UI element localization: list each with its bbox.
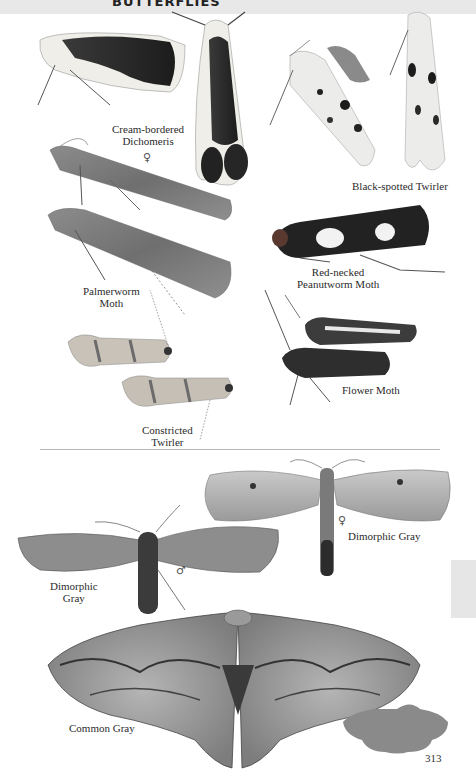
label-palmerworm-moth: Palmerworm Moth bbox=[83, 285, 140, 309]
moth-black-spotted-twirler-left-icon bbox=[270, 40, 375, 166]
page-number: 313 bbox=[425, 752, 442, 764]
label-line: Palmerworm bbox=[83, 285, 140, 297]
label-line: Dimorphic bbox=[50, 580, 98, 592]
moth-common-gray-icon bbox=[48, 610, 420, 768]
moth-black-spotted-twirler-top-icon bbox=[390, 12, 445, 170]
label-line: Flower Moth bbox=[342, 384, 400, 396]
label-line: Red-necked bbox=[297, 266, 379, 278]
moth-cream-bordered-side-icon bbox=[38, 33, 185, 105]
label-cream-bordered-dichomeris: Cream-bordered Dichomeris bbox=[112, 123, 184, 147]
label-dimorphic-gray-female: Dimorphic Gray bbox=[348, 530, 420, 542]
label-constricted-twirler: Constricted Twirler bbox=[142, 424, 193, 448]
female-symbol-dimorphic-gray: ♀ bbox=[338, 514, 346, 527]
moth-cream-bordered-top-icon bbox=[172, 12, 248, 185]
thumb-index-tab bbox=[451, 560, 476, 618]
label-flower-moth: Flower Moth bbox=[342, 384, 400, 396]
label-common-gray: Common Gray bbox=[69, 722, 135, 734]
label-red-necked-peanutworm-moth: Red-necked Peanutworm Moth bbox=[297, 266, 379, 290]
label-line: Peanutworm Moth bbox=[297, 278, 379, 290]
male-symbol-dimorphic-gray: ♂ bbox=[176, 564, 186, 577]
label-line: Constricted bbox=[142, 424, 193, 436]
label-line: Moth bbox=[83, 297, 140, 309]
female-symbol-palmerworm: ♀ bbox=[143, 151, 151, 164]
moth-flower-upper-icon bbox=[285, 295, 417, 345]
label-line: Gray bbox=[50, 592, 98, 604]
label-line: Dimorphic Gray bbox=[348, 530, 420, 542]
moth-illustrations bbox=[0, 0, 476, 777]
section-divider bbox=[40, 449, 440, 450]
label-line: Twirler bbox=[142, 436, 193, 448]
label-line: Black-spotted Twirler bbox=[352, 180, 448, 192]
label-black-spotted-twirler: Black-spotted Twirler bbox=[352, 180, 448, 192]
label-dimorphic-gray-male: Dimorphic Gray bbox=[50, 580, 98, 604]
label-line: Cream-bordered bbox=[112, 123, 184, 135]
label-line: Dichomeris bbox=[112, 135, 184, 147]
label-line: Common Gray bbox=[69, 722, 135, 734]
moth-red-necked-peanutworm-icon bbox=[272, 205, 445, 272]
